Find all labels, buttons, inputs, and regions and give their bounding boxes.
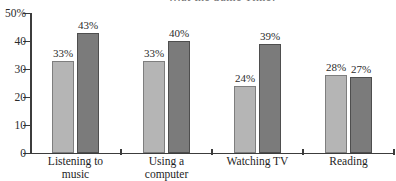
bar-series-2-dark [259, 44, 281, 153]
bar-value-label: 43% [68, 19, 108, 31]
bar-series-1-light [234, 86, 256, 153]
bar-series-1-light [143, 61, 165, 153]
y-tick-label: 40 [0, 35, 26, 47]
category-label: Watching TV [210, 155, 306, 168]
y-axis-line [30, 13, 32, 153]
category-label: Reading [301, 155, 396, 168]
y-tick-label: 50% [0, 7, 26, 19]
bar-series-2-dark [350, 77, 372, 153]
bar-series-1-light [325, 75, 347, 153]
clipped-title: …at the Same Time? [103, 0, 343, 3]
category-label: Listening to music [28, 155, 124, 180]
clipped-title-text: …at the Same Time? [103, 0, 343, 3]
y-tick-label: 30 [0, 63, 26, 75]
bar-series-2-dark [168, 41, 190, 153]
bar-series-1-light [52, 61, 74, 153]
bar-value-label: 27% [341, 63, 381, 75]
bar-value-label: 39% [250, 30, 290, 42]
media-multitasking-bar-chart: …at the Same Time? 50%403020100 33%43%33… [0, 0, 396, 181]
bar-series-2-dark [77, 33, 99, 153]
y-tick-label: 20 [0, 91, 26, 103]
category-label: Using a computer [119, 155, 215, 180]
y-tick-label: 10 [0, 119, 26, 131]
bar-value-label: 40% [159, 27, 199, 39]
y-tick-label: 0 [0, 147, 26, 159]
